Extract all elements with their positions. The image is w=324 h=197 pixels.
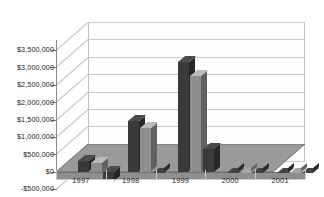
x-axis-labels: 19971998199920002001	[0, 0, 324, 197]
x-axis-tick-label: 1999	[159, 176, 203, 185]
x-axis-divider	[106, 170, 107, 179]
x-axis-tick-label: 1997	[59, 176, 103, 185]
x-axis-divider	[56, 170, 57, 179]
chart-3d-column: $3,500,000$3,000,000$2,500,000$2,000,000…	[0, 0, 324, 197]
x-axis-divider	[305, 170, 306, 179]
x-axis-tick-label: 2001	[258, 176, 302, 185]
x-axis-divider	[205, 170, 206, 179]
x-axis-divider	[255, 170, 256, 179]
x-axis-divider	[156, 170, 157, 179]
x-axis-tick-label: 2000	[208, 176, 252, 185]
x-axis-tick-label: 1998	[109, 176, 153, 185]
